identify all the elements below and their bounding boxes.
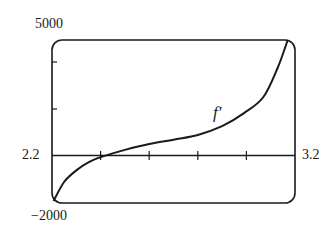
chart-canvas <box>0 0 335 240</box>
x-max-label: 3.2 <box>302 148 320 162</box>
plot-frame <box>52 40 295 203</box>
f-prime-curve <box>54 40 288 201</box>
y-min-label: −2000 <box>31 209 67 223</box>
y-max-label: 5000 <box>35 17 63 31</box>
x-min-label: 2.2 <box>22 148 40 162</box>
curve-label: f′ <box>213 103 221 123</box>
